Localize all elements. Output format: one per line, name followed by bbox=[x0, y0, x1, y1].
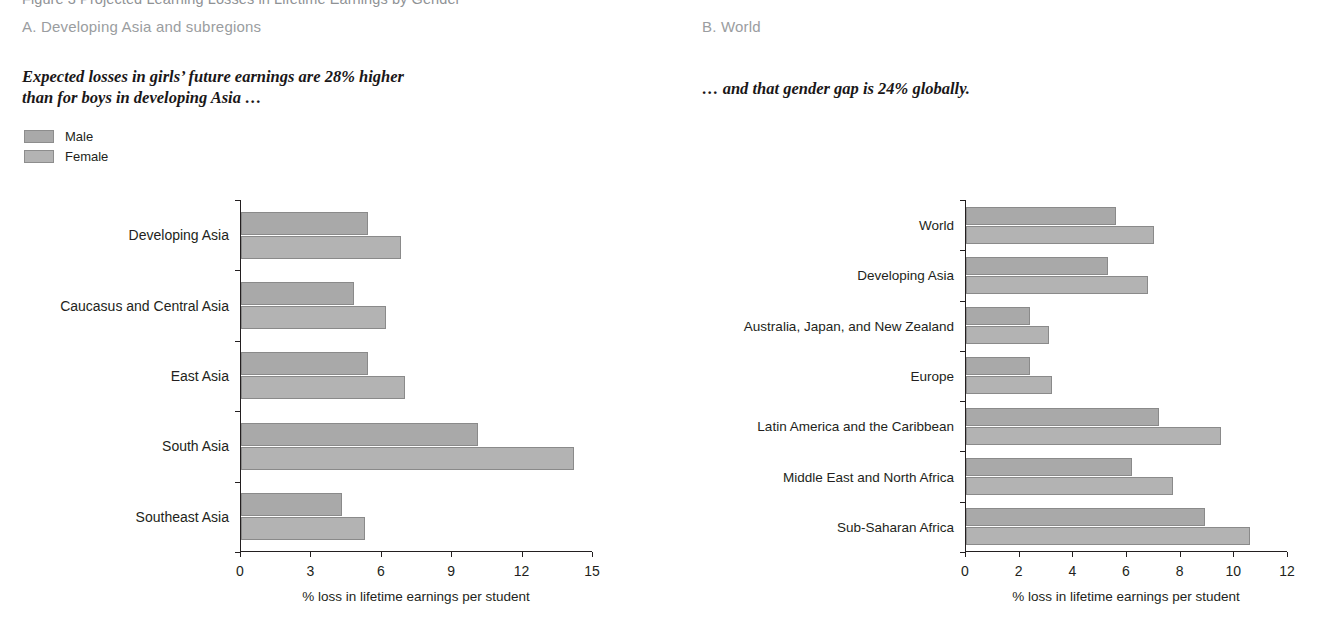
bar-group: Sub-Saharan Africa bbox=[966, 502, 1287, 552]
bar-male bbox=[966, 408, 1159, 426]
panel-a-subtitle: Expected losses in girls’ future earning… bbox=[22, 66, 442, 108]
category-label: Southeast Asia bbox=[136, 509, 229, 525]
bar-group: South Asia bbox=[241, 411, 592, 481]
x-tick bbox=[1126, 552, 1127, 557]
chart-plot-b: % loss in lifetime earnings per student … bbox=[965, 200, 1287, 552]
bar-male bbox=[241, 352, 368, 375]
x-tick bbox=[451, 552, 452, 557]
x-tick-label: 10 bbox=[1226, 563, 1242, 579]
bar-male bbox=[966, 207, 1116, 225]
y-tick bbox=[235, 482, 240, 483]
bar-male bbox=[966, 357, 1030, 375]
x-tick-label: 3 bbox=[306, 563, 314, 579]
x-tick bbox=[240, 552, 241, 557]
bar-female bbox=[241, 376, 405, 399]
x-tick bbox=[1019, 552, 1020, 557]
panel-b-label: B. World bbox=[702, 18, 761, 35]
bar-female bbox=[966, 527, 1250, 545]
y-tick bbox=[960, 200, 965, 201]
category-label: Developing Asia bbox=[129, 227, 229, 243]
category-label: Latin America and the Caribbean bbox=[757, 419, 954, 434]
bar-female bbox=[241, 306, 386, 329]
bar-group: Developing Asia bbox=[241, 200, 592, 270]
bar-male bbox=[241, 282, 354, 305]
x-tick-label: 0 bbox=[961, 563, 969, 579]
y-tick bbox=[960, 502, 965, 503]
x-axis-title-b: % loss in lifetime earnings per student bbox=[1012, 589, 1239, 604]
legend-label-female: Female bbox=[65, 149, 108, 164]
x-tick bbox=[381, 552, 382, 557]
y-tick bbox=[960, 301, 965, 302]
bar-female bbox=[966, 226, 1154, 244]
bar-group: Australia, Japan, and New Zealand bbox=[966, 301, 1287, 351]
bar-male bbox=[241, 212, 368, 235]
y-tick bbox=[960, 451, 965, 452]
x-tick bbox=[1180, 552, 1181, 557]
x-tick-label: 6 bbox=[1122, 563, 1130, 579]
bar-group: World bbox=[966, 200, 1287, 250]
x-tick-label: 9 bbox=[447, 563, 455, 579]
legend-swatch-female bbox=[24, 150, 54, 163]
bar-female bbox=[966, 427, 1221, 445]
bar-female bbox=[241, 236, 401, 259]
y-tick bbox=[235, 200, 240, 201]
category-label: Sub-Saharan Africa bbox=[837, 519, 954, 534]
chart-legend: Male Female bbox=[24, 128, 108, 168]
bar-female bbox=[966, 376, 1052, 394]
x-tick-label: 2 bbox=[1015, 563, 1023, 579]
category-label: Middle East and North Africa bbox=[783, 469, 954, 484]
x-tick bbox=[310, 552, 311, 557]
panel-a-label: A. Developing Asia and subregions bbox=[22, 18, 261, 35]
category-label: World bbox=[919, 218, 954, 233]
x-tick bbox=[592, 552, 593, 557]
category-label: Australia, Japan, and New Zealand bbox=[744, 318, 954, 333]
y-tick bbox=[960, 351, 965, 352]
bar-group: East Asia bbox=[241, 341, 592, 411]
category-label: Europe bbox=[910, 368, 954, 383]
bar-male bbox=[966, 257, 1108, 275]
bar-female bbox=[241, 517, 365, 540]
x-tick bbox=[1287, 552, 1288, 557]
x-tick-label: 12 bbox=[514, 563, 530, 579]
y-tick bbox=[960, 552, 965, 553]
legend-swatch-male bbox=[24, 130, 54, 143]
x-tick bbox=[1233, 552, 1234, 557]
bar-group: Middle East and North Africa bbox=[966, 451, 1287, 501]
panel-b-subtitle: … and that gender gap is 24% globally. bbox=[702, 78, 1122, 99]
legend-label-male: Male bbox=[65, 129, 93, 144]
panel-a: A. Developing Asia and subregions Expect… bbox=[0, 0, 660, 639]
category-label: Caucasus and Central Asia bbox=[60, 298, 229, 314]
bar-group: Latin America and the Caribbean bbox=[966, 401, 1287, 451]
x-tick bbox=[965, 552, 966, 557]
category-label: East Asia bbox=[171, 368, 229, 384]
y-tick bbox=[960, 250, 965, 251]
y-tick bbox=[235, 341, 240, 342]
bar-male bbox=[966, 508, 1205, 526]
x-axis-title-a: % loss in lifetime earnings per student bbox=[302, 589, 529, 604]
x-tick bbox=[1072, 552, 1073, 557]
category-label: South Asia bbox=[162, 438, 229, 454]
legend-item-male: Male bbox=[24, 128, 108, 145]
x-tick-label: 0 bbox=[236, 563, 244, 579]
y-tick bbox=[235, 411, 240, 412]
bar-female bbox=[966, 477, 1173, 495]
panel-b: B. World … and that gender gap is 24% gl… bbox=[660, 0, 1324, 639]
bar-male bbox=[241, 493, 342, 516]
chart-plot-a: % loss in lifetime earnings per student … bbox=[240, 200, 592, 552]
bar-group: Southeast Asia bbox=[241, 482, 592, 552]
y-tick bbox=[235, 552, 240, 553]
bar-female bbox=[241, 447, 574, 470]
x-tick-label: 12 bbox=[1279, 563, 1295, 579]
y-tick bbox=[235, 270, 240, 271]
x-tick-label: 6 bbox=[377, 563, 385, 579]
x-tick bbox=[522, 552, 523, 557]
bar-female bbox=[966, 276, 1148, 294]
x-tick-label: 15 bbox=[584, 563, 600, 579]
bar-group: Developing Asia bbox=[966, 250, 1287, 300]
y-tick bbox=[960, 401, 965, 402]
x-tick-label: 4 bbox=[1068, 563, 1076, 579]
bar-group: Europe bbox=[966, 351, 1287, 401]
bar-male bbox=[966, 458, 1132, 476]
x-tick-label: 8 bbox=[1176, 563, 1184, 579]
bar-group: Caucasus and Central Asia bbox=[241, 270, 592, 340]
